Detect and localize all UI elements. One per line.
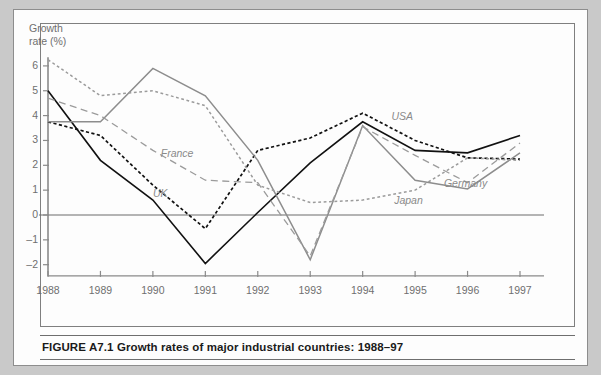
x-tick-label-1996: 1996 bbox=[446, 284, 490, 296]
x-tick-label-1991: 1991 bbox=[183, 284, 227, 296]
x-tick-label-1990: 1990 bbox=[131, 284, 175, 296]
x-tick-label-1994: 1994 bbox=[341, 284, 385, 296]
series-label-uk: UK bbox=[153, 187, 168, 199]
series-label-france: France bbox=[161, 147, 194, 159]
y-tick-label-5: 5 bbox=[16, 84, 38, 96]
x-tick-label-1993: 1993 bbox=[288, 284, 332, 296]
figure-page: FIGURE A7.1 Growth rates of major indust… bbox=[0, 0, 601, 375]
caption-divider-bottom bbox=[40, 359, 575, 360]
x-tick-label-1997: 1997 bbox=[498, 284, 542, 296]
y-tick-label-3: 3 bbox=[16, 133, 38, 145]
y-axis-title-line2: rate (%) bbox=[29, 35, 66, 47]
series-label-germany: Germany bbox=[444, 177, 487, 189]
y-tick-label-1: 1 bbox=[16, 183, 38, 195]
x-tick-label-1995: 1995 bbox=[393, 284, 437, 296]
y-tick-label-neg1: –1 bbox=[16, 233, 38, 245]
figure-card: FIGURE A7.1 Growth rates of major indust… bbox=[13, 9, 588, 366]
y-tick-label-2: 2 bbox=[16, 158, 38, 170]
x-tick-label-1989: 1989 bbox=[78, 284, 122, 296]
y-tick-label-4: 4 bbox=[16, 109, 38, 121]
y-axis-title-line1: Growth bbox=[29, 22, 63, 34]
y-tick-label-neg2: –2 bbox=[16, 258, 38, 270]
plot-frame bbox=[40, 23, 575, 327]
y-tick-label-6: 6 bbox=[16, 59, 38, 71]
series-label-usa: USA bbox=[392, 110, 414, 122]
x-tick-label-1988: 1988 bbox=[26, 284, 70, 296]
y-axis-title: Growth rate (%) bbox=[29, 22, 66, 47]
series-label-japan: Japan bbox=[394, 194, 423, 206]
caption-divider-top bbox=[40, 335, 575, 336]
figure-caption: FIGURE A7.1 Growth rates of major indust… bbox=[42, 341, 572, 353]
y-tick-label-0: 0 bbox=[16, 208, 38, 220]
x-tick-label-1992: 1992 bbox=[236, 284, 280, 296]
